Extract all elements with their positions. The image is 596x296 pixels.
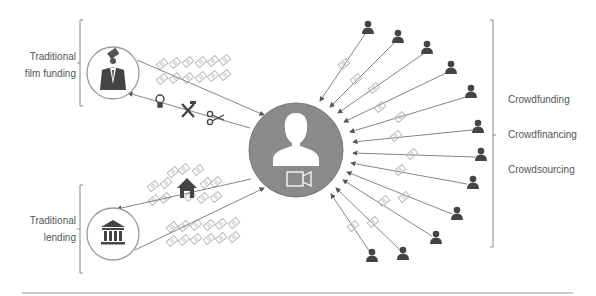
bracket-film-funding (77, 20, 83, 106)
money-grid-lending (166, 217, 240, 246)
label-traditional-film-funding: Traditional film funding (20, 48, 76, 82)
crowd-persons (362, 21, 487, 262)
lending-circle (87, 208, 139, 260)
bracket-lending (77, 185, 83, 273)
bracket-crowd (490, 20, 496, 247)
label-traditional-lending: Traditional lending (20, 212, 76, 246)
label-crowdsourcing: Crowdsourcing (508, 161, 575, 178)
crowd-money (338, 58, 418, 231)
film-funding-circle (87, 47, 139, 99)
label-crowdfunding: Crowdfunding (508, 91, 570, 108)
money-grid-film (156, 54, 231, 84)
center-filmmaker-circle (249, 103, 343, 197)
lightbulb-icon (156, 95, 164, 107)
label-crowdfinancing: Crowdfinancing (508, 126, 577, 143)
crowdfunding-diagram (0, 0, 596, 296)
